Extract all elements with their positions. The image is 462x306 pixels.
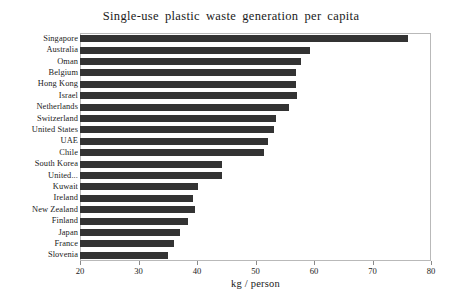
bar-row	[80, 56, 431, 68]
bar	[80, 138, 268, 145]
bar	[80, 240, 174, 247]
bar	[80, 47, 310, 54]
x-axis-tick-mark	[373, 261, 374, 265]
plot-area	[80, 33, 431, 261]
bar-row	[80, 90, 431, 102]
x-axis-tick-label: 50	[251, 266, 260, 276]
bar-row	[80, 44, 431, 56]
x-axis-tick-label: 40	[193, 266, 202, 276]
x-axis-tick-mark	[80, 261, 81, 265]
chart-title: Single-use plastic waste generation per …	[0, 9, 462, 24]
x-axis-tick-label: 20	[76, 266, 85, 276]
bar-row	[80, 147, 431, 159]
y-axis-tick-label: Japan	[0, 228, 78, 237]
y-axis-tick-label: Hong Kong	[0, 79, 78, 88]
bar	[80, 195, 193, 202]
bar-row	[80, 135, 431, 147]
bar-row	[80, 227, 431, 239]
bar	[80, 149, 264, 156]
x-axis-tick-label: 60	[310, 266, 319, 276]
bar-row	[80, 170, 431, 182]
y-axis-tick-label: New Zealand	[0, 205, 78, 214]
x-axis-tick-mark	[431, 261, 432, 265]
bar	[80, 183, 198, 190]
chart-root: Single-use plastic waste generation per …	[0, 0, 462, 306]
bar-row	[80, 158, 431, 170]
y-axis-tick-label: France	[0, 239, 78, 248]
y-axis-tick-label: Chile	[0, 148, 78, 157]
bar-row	[80, 204, 431, 216]
bar	[80, 206, 195, 213]
y-axis-tick-label: UAE	[0, 136, 78, 145]
x-axis-title: kg / person	[80, 278, 431, 289]
y-axis-tick-label: Netherlands	[0, 102, 78, 111]
bar-row	[80, 67, 431, 79]
bar	[80, 218, 188, 225]
y-axis-tick-label: United States	[0, 125, 78, 134]
bar	[80, 104, 289, 111]
bar-row	[80, 249, 431, 261]
bar-row	[80, 78, 431, 90]
x-axis-tick-label: 30	[134, 266, 143, 276]
x-axis-tick-mark	[314, 261, 315, 265]
bar-row	[80, 33, 431, 45]
y-axis-tick-label: Singapore	[0, 34, 78, 43]
y-axis-tick-label: Australia	[0, 45, 78, 54]
bar	[80, 92, 297, 99]
bar	[80, 81, 296, 88]
bar-row	[80, 124, 431, 136]
bar	[80, 69, 296, 76]
y-axis-tick-label: Switzerland	[0, 114, 78, 123]
x-axis-tick-mark	[256, 261, 257, 265]
y-axis-tick-label: Kuwait	[0, 182, 78, 191]
bar	[80, 172, 222, 179]
bar-row	[80, 181, 431, 193]
bar-row	[80, 113, 431, 125]
y-axis-labels: SingaporeAustraliaOmanBelgiumHong KongIs…	[0, 33, 78, 261]
x-axis-tick-label: 70	[368, 266, 377, 276]
y-axis-tick-label: Slovenia	[0, 250, 78, 259]
bar-row	[80, 215, 431, 227]
bar-row	[80, 101, 431, 113]
bar	[80, 126, 274, 133]
y-axis-tick-label: United...	[0, 171, 78, 180]
bar-row	[80, 238, 431, 250]
y-axis-tick-label: Oman	[0, 57, 78, 66]
bar	[80, 58, 301, 65]
x-axis-tick-mark	[139, 261, 140, 265]
bar	[80, 252, 168, 259]
bar	[80, 35, 408, 42]
y-axis-tick-label: Israel	[0, 91, 78, 100]
bar	[80, 115, 276, 122]
x-axis-tick-label: 80	[427, 266, 436, 276]
x-axis-tick-mark	[197, 261, 198, 265]
bar-row	[80, 192, 431, 204]
y-axis-tick-label: Belgium	[0, 68, 78, 77]
y-axis-tick-label: South Korea	[0, 159, 78, 168]
bar	[80, 161, 222, 168]
y-axis-tick-label: Ireland	[0, 193, 78, 202]
bar	[80, 229, 180, 236]
y-axis-tick-label: Finland	[0, 216, 78, 225]
